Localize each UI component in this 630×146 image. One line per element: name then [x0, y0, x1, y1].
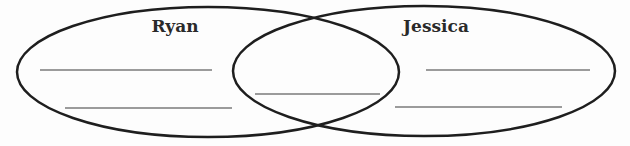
- set-ryan-label: Ryan: [151, 16, 198, 36]
- set-jessica-label: Jessica: [401, 16, 469, 36]
- venn-diagram: Ryan Jessica: [0, 0, 630, 146]
- set-ryan-ellipse: [17, 7, 399, 137]
